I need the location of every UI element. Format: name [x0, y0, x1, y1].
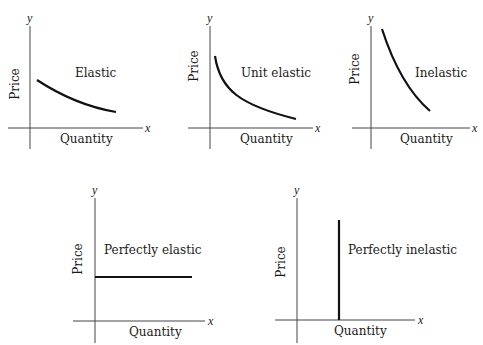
y-axis-label: Price — [71, 243, 85, 274]
y-axis-label: Price — [187, 50, 201, 81]
panel-unit-elastic: y x Price Quantity Unit elastic — [187, 11, 321, 149]
y-axis-symbol: y — [293, 183, 300, 197]
panel-title: Perfectly elastic — [104, 243, 202, 257]
y-axis-label: Price — [274, 246, 288, 277]
panel-title: Perfectly inelastic — [348, 243, 457, 257]
y-axis-label: Price — [348, 53, 362, 84]
x-axis-symbol: x — [471, 121, 478, 135]
x-axis-symbol: x — [144, 121, 151, 135]
y-axis-symbol: y — [26, 11, 33, 25]
x-axis-symbol: x — [417, 313, 424, 327]
x-axis-symbol: x — [314, 121, 321, 135]
elasticity-diagrams: y x Price Quantity Elastic y x Price Qua… — [0, 0, 483, 345]
x-axis-label: Quantity — [60, 132, 113, 146]
x-axis-label: Quantity — [129, 325, 182, 339]
panel-inelastic: y x Price Quantity Inelastic — [348, 11, 478, 149]
panel-title: Inelastic — [415, 66, 467, 80]
y-axis-label: Price — [8, 68, 22, 99]
x-axis-symbol: x — [207, 314, 214, 328]
panel-title: Elastic — [75, 66, 117, 80]
y-axis-symbol: y — [206, 11, 213, 25]
panel-title: Unit elastic — [241, 66, 311, 80]
y-axis-symbol: y — [91, 183, 98, 197]
y-axis-symbol: y — [367, 11, 374, 25]
panel-perfectly-inelastic: y x Price Quantity Perfectly inelastic — [274, 183, 457, 343]
x-axis-label: Quantity — [334, 324, 387, 338]
x-axis-label: Quantity — [400, 132, 453, 146]
x-axis-label: Quantity — [240, 132, 293, 146]
panel-elastic: y x Price Quantity Elastic — [8, 11, 151, 149]
demand-curve — [37, 80, 116, 112]
panel-perfectly-elastic: y x Price Quantity Perfectly elastic — [71, 183, 214, 343]
